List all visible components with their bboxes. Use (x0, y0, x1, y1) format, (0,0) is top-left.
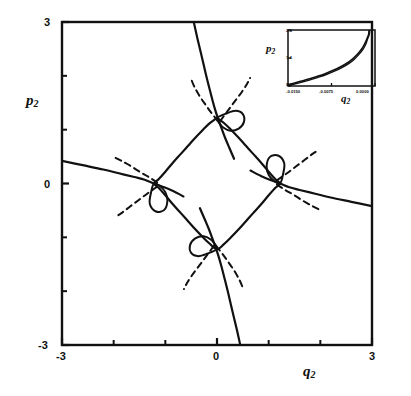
inset-curve-group (288, 30, 370, 85)
inset-clipped-curves (288, 30, 370, 85)
solid-branch-lower-steep (200, 208, 240, 345)
inset-x-tick-label-right: 0.0000 (356, 89, 369, 94)
inset-y-tick-label-top: 2.4 (286, 28, 292, 33)
inset-x-tick-label-mid: -0.0075 (319, 89, 333, 94)
dashed-right-cusp-lower-arm (277, 185, 319, 210)
inset-plot: p2 q2 2.4 1.4 0.4 -0.0150 -0.0075 0.0000 (268, 26, 380, 108)
dashed-bottom-cusp-right-arm (216, 246, 243, 288)
inset-x-tick-label-left: -0.0150 (286, 89, 300, 94)
inset-y-tick-label-mid: 1.4 (286, 55, 292, 60)
x-tick-label-mid: 0 (213, 350, 219, 362)
inset-asymptotic-curve-inner (288, 31, 370, 86)
inset-plot-canvas (268, 26, 380, 108)
y-tick-label-top: 3 (44, 16, 50, 28)
inset-y-axis-label: p2 (266, 42, 275, 56)
x-tick-label-left: -3 (56, 350, 66, 362)
inset-plot-frame (288, 30, 375, 86)
inset-axis-ticks (288, 30, 375, 86)
phase-space-figure: p2 q2 3 0 -3 -3 0 3 p2 q2 2.4 1.4 0.4 -0… (0, 0, 411, 396)
inset-x-axis-label: q2 (341, 92, 350, 106)
dashed-top-cusp-left-arm (191, 79, 218, 121)
x-axis-label: q2 (303, 363, 316, 380)
inset-y-tick-label-bottom: 0.4 (286, 82, 292, 87)
solid-caustic-central-diamond (154, 118, 280, 249)
x-tick-label-right: 3 (369, 350, 375, 362)
dashed-left-cusp-upper-arm (115, 158, 157, 183)
inset-asymptotic-curve-outer (288, 31, 369, 85)
y-tick-label-bottom: -3 (38, 339, 48, 351)
solid-branch-upper-steep (194, 22, 234, 159)
y-axis-label: p2 (26, 92, 39, 109)
inset-frame-rect (288, 30, 375, 86)
y-tick-label-mid: 0 (44, 178, 50, 190)
